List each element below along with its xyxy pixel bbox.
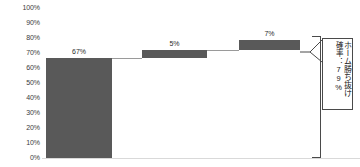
bar <box>142 50 207 58</box>
annotation-main-label: ホーム勝ち抜け <box>342 41 351 97</box>
y-axis-tick-label: 20% <box>0 124 40 132</box>
bracket-top-tick <box>312 36 321 37</box>
y-axis-tick-label: 30% <box>0 109 40 117</box>
waterfall-connector <box>207 50 239 51</box>
y-axis-tick-label: 10% <box>0 139 40 147</box>
waterfall-connector <box>112 58 142 59</box>
y-axis-labels: 100%90%80%70%60%50%40%30%20%10%0% <box>0 0 42 167</box>
y-axis-tick-label: 50% <box>0 79 40 87</box>
bracket-bottom-tick <box>312 157 321 158</box>
annotation-sub-label: 確率：79% <box>334 41 342 92</box>
bar <box>46 58 112 159</box>
callout-tail-icon <box>300 38 324 64</box>
y-axis-tick-label: 90% <box>0 19 40 27</box>
annotation-callout-box: ホーム勝ち抜け 確率：79% <box>322 38 353 110</box>
bar-data-label: 5% <box>142 40 207 48</box>
baseline-axis <box>42 158 360 159</box>
y-axis-tick-label: 60% <box>0 64 40 72</box>
y-axis-tick-label: 0% <box>0 154 40 162</box>
y-axis-tick-label: 100% <box>0 4 40 12</box>
bar-data-label: 67% <box>46 48 112 56</box>
y-axis-tick-label: 40% <box>0 94 40 102</box>
y-axis-tick-label: 70% <box>0 49 40 57</box>
waterfall-chart: 100%90%80%70%60%50%40%30%20%10%0% 67%5%7… <box>0 0 360 167</box>
bar-data-label: 7% <box>239 30 300 38</box>
y-axis-tick-label: 80% <box>0 34 40 42</box>
bar <box>239 40 300 51</box>
